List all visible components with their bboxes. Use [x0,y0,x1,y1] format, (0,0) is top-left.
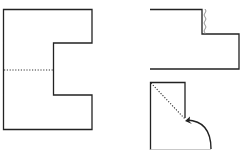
l-shape-outline [150,10,239,70]
figure-c-shape [4,10,93,130]
c-shape-outline [4,10,93,130]
wavy-crease-line [204,9,206,34]
diagram-canvas [0,0,244,152]
figure-folded-l-shape [150,9,239,69]
diagonal-fold-line [151,83,185,119]
figure-diagonal-fold [150,83,211,151]
rectangle-outline [151,83,186,151]
curved-fold-arrow [187,120,211,149]
